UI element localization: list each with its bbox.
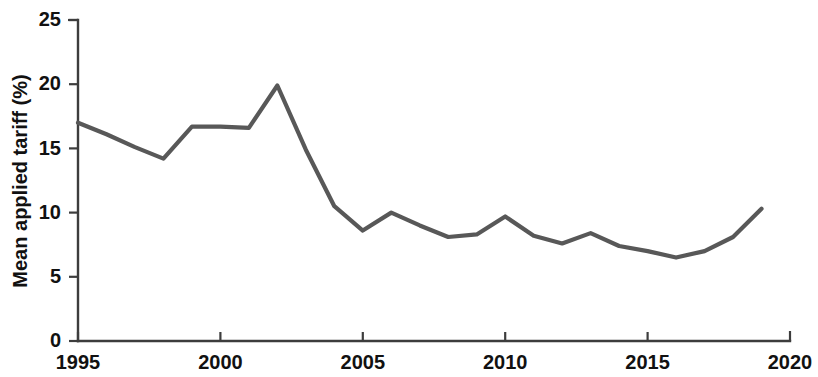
y-tick-label-15: 15 <box>39 137 61 159</box>
x-tick-label-1995: 1995 <box>56 351 101 373</box>
x-axis-ticks <box>78 332 648 341</box>
x-tick-label-2010: 2010 <box>483 351 528 373</box>
y-tick-label-10: 10 <box>39 201 61 223</box>
y-tick-label-5: 5 <box>50 265 61 287</box>
tariff-line-series <box>78 85 762 257</box>
y-tick-label-25: 25 <box>39 8 61 30</box>
y-axis-title: Mean applied tariff (%) <box>9 74 31 287</box>
chart-figure: 0510152025 199520002005201020152020 Mean… <box>0 0 818 377</box>
y-axis-ticks <box>69 20 78 341</box>
x-tick-label-2020: 2020 <box>768 351 813 373</box>
x-tick-label-2005: 2005 <box>341 351 386 373</box>
y-tick-label-0: 0 <box>50 329 61 351</box>
y-tick-label-20: 20 <box>39 72 61 94</box>
x-axis-tick-labels: 199520002005201020152020 <box>56 351 813 373</box>
x-tick-label-2000: 2000 <box>198 351 243 373</box>
y-axis-tick-labels: 0510152025 <box>39 8 61 351</box>
x-tick-label-2015: 2015 <box>625 351 670 373</box>
line-chart-canvas: 0510152025 199520002005201020152020 Mean… <box>0 0 818 377</box>
plot-area: 0510152025 199520002005201020152020 Mean… <box>9 8 812 373</box>
